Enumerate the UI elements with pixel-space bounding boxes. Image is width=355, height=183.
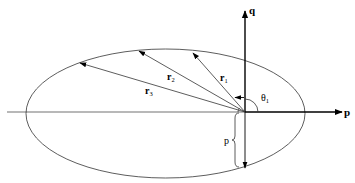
ellipse-diagram: q p r1 r2 r3 θ1 p [0,0,355,183]
p-axis-label: p [344,106,350,118]
r3-vector [80,63,245,112]
r2-vector [139,51,245,112]
r3-label: r3 [145,85,153,97]
ellipse-orbit [26,49,305,178]
r1-label-sub: 1 [224,77,227,84]
p-brace-label: p [224,135,229,146]
p-brace [232,113,239,167]
r3-label-sub: 3 [149,90,152,97]
diagram-canvas: q p r1 r2 r3 θ1 p [0,0,355,183]
r2-label: r2 [167,71,175,83]
r1-vector [193,53,245,112]
r2-label-sub: 2 [171,76,174,83]
theta1-label: θ1 [261,92,269,104]
q-axis-label: q [249,4,256,16]
theta1-label-sub: 1 [266,97,269,104]
theta-arc [245,99,258,112]
r1-label: r1 [220,72,228,84]
